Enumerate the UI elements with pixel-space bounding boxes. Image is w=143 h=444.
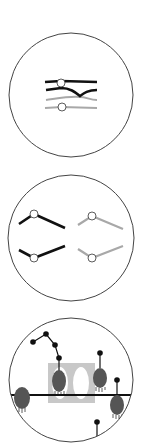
dot	[52, 342, 58, 348]
dot	[43, 331, 49, 337]
joint-node	[88, 212, 96, 220]
junction-node-lower	[58, 103, 66, 111]
panel-3	[8, 318, 134, 442]
dot	[97, 350, 103, 356]
junction-node-upper	[57, 79, 65, 87]
panel-1	[9, 33, 133, 157]
organism-body	[93, 368, 107, 388]
black-segment-lower	[19, 246, 65, 258]
gray-strand-lower	[45, 107, 97, 108]
gray-segment-upper	[78, 216, 123, 229]
panel-2-outline	[8, 175, 134, 301]
gray-strand-upper	[46, 97, 97, 100]
panel-2	[8, 175, 134, 301]
dot	[114, 377, 120, 383]
black-strand-upper	[45, 81, 97, 82]
black-strand-lower	[46, 88, 97, 96]
joint-node	[30, 254, 38, 262]
joint-node	[88, 254, 96, 262]
dot	[30, 339, 36, 345]
dot	[94, 419, 100, 425]
diagram-canvas	[0, 0, 143, 444]
black-segment-upper	[19, 214, 65, 228]
diagram-stage	[0, 0, 143, 444]
organism-body	[14, 387, 30, 409]
organism-body	[52, 370, 66, 392]
dot	[56, 355, 62, 361]
panel-1-outline	[9, 33, 133, 157]
organism-body	[110, 395, 124, 415]
gray-segment-lower	[78, 246, 123, 258]
joint-node	[30, 210, 38, 218]
